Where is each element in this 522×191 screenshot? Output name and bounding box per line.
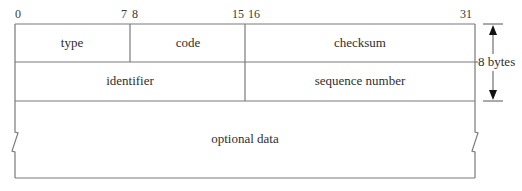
bit-label-15: 15 (232, 7, 244, 21)
field-identifier: identifier (106, 73, 154, 88)
field-optional-data: optional data (211, 131, 279, 146)
field-code: code (176, 35, 201, 50)
packet-format-diagram: 0 7 8 15 16 31 type code checksum identi… (0, 0, 522, 191)
arrow-down-icon (489, 90, 497, 100)
field-type: type (61, 35, 84, 50)
arrow-up-icon (489, 25, 497, 35)
bit-label-7: 7 (121, 7, 127, 21)
bit-label-8: 8 (132, 7, 138, 21)
bit-label-0: 0 (15, 7, 21, 21)
field-sequence-number: sequence number (315, 73, 406, 88)
bit-label-31: 31 (460, 7, 472, 21)
size-annotation: 8 bytes (478, 54, 515, 69)
bit-label-16: 16 (248, 7, 260, 21)
field-checksum: checksum (334, 35, 386, 50)
